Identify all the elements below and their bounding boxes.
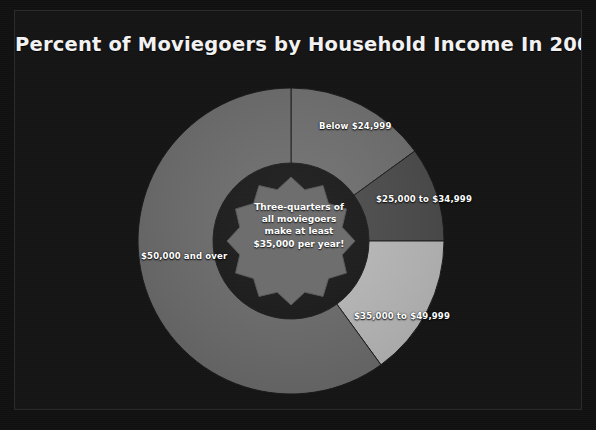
donut-chart: Below $24,999 $25,000 to $34,999 $35,000… bbox=[15, 11, 582, 410]
donut-svg bbox=[15, 11, 582, 410]
center-star-badge bbox=[227, 177, 355, 305]
chart-panel: Percent of Moviegoers by Household Incom… bbox=[14, 10, 582, 410]
screenshot-root: Percent of Moviegoers by Household Incom… bbox=[0, 0, 596, 430]
